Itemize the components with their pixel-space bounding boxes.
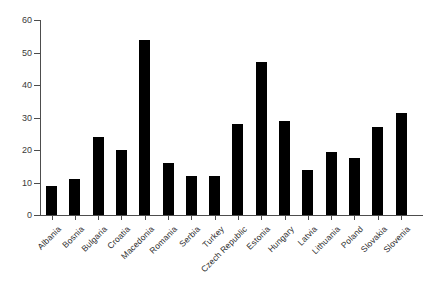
y-tick-mark [34, 118, 40, 119]
y-tick-label: 40 [22, 80, 32, 90]
y-tick-mark [34, 150, 40, 151]
y-tick-mark [34, 85, 40, 86]
x-tick-mark [121, 215, 122, 220]
bar [69, 179, 80, 215]
bar [279, 121, 290, 215]
x-tick-mark [215, 215, 216, 220]
x-tick-mark [354, 215, 355, 220]
x-tick-mark [191, 215, 192, 220]
x-tick-mark [308, 215, 309, 220]
y-tick-label: 20 [22, 145, 32, 155]
x-tick-label: Serbia [177, 224, 202, 249]
x-tick-mark [261, 215, 262, 220]
y-tick-mark [34, 183, 40, 184]
x-tick-mark [238, 215, 239, 220]
bar [396, 113, 407, 215]
bar [232, 124, 243, 215]
y-tick-label: 30 [22, 113, 32, 123]
bar [372, 127, 383, 215]
bar [256, 62, 267, 215]
bar [93, 137, 104, 215]
y-axis-line [40, 20, 41, 215]
x-tick-mark [331, 215, 332, 220]
plot-area: 0102030405060 AlbaniaBosniaBulgariaCroat… [0, 0, 432, 291]
x-tick-mark [98, 215, 99, 220]
bar [209, 176, 220, 215]
y-tick-label: 60 [22, 15, 32, 25]
x-tick-mark [378, 215, 379, 220]
bar [302, 170, 313, 216]
x-tick-mark [145, 215, 146, 220]
x-tick-label: Albania [35, 224, 63, 252]
bar [46, 186, 57, 215]
y-tick-label: 0 [27, 210, 32, 220]
y-tick-label: 50 [22, 48, 32, 58]
bar [349, 158, 360, 215]
y-tick-mark [34, 215, 40, 216]
bar [186, 176, 197, 215]
bar-chart: 0102030405060 AlbaniaBosniaBulgariaCroat… [0, 0, 432, 291]
x-tick-mark [285, 215, 286, 220]
bar [326, 152, 337, 215]
bar [163, 163, 174, 215]
x-tick-mark [401, 215, 402, 220]
y-tick-mark [34, 53, 40, 54]
x-tick-mark [168, 215, 169, 220]
bar [139, 40, 150, 216]
y-tick-label: 10 [22, 178, 32, 188]
x-tick-mark [75, 215, 76, 220]
y-tick-mark [34, 20, 40, 21]
x-tick-mark [52, 215, 53, 220]
bar [116, 150, 127, 215]
